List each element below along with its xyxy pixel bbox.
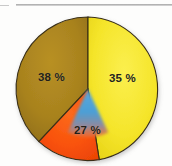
slice-label-yellow: 35 % [109, 72, 136, 84]
pie-slices-group [16, 17, 158, 161]
slice-label-red: 27 % [74, 124, 101, 136]
slice-yellow [88, 17, 158, 160]
figure-canvas: 35 % 27 % 38 % [0, 0, 172, 166]
slice-label-olive: 38 % [38, 71, 65, 83]
pie-chart-svg [0, 0, 172, 166]
pie-chart: 35 % 27 % 38 % [0, 0, 172, 166]
